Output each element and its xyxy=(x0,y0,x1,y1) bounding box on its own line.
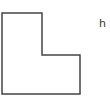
l-shaped-polygon xyxy=(2,13,80,94)
dimension-label-h: h xyxy=(99,18,106,29)
diagram-canvas xyxy=(0,0,110,98)
